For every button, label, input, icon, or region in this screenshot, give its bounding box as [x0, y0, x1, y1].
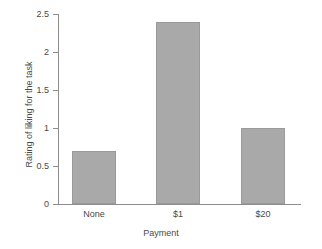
- x-axis-line: [58, 204, 301, 205]
- x-tick-label-dollar-1: $1: [148, 209, 208, 220]
- y-tick-label-0: 0: [20, 200, 49, 209]
- y-tick-label-0-text: 0: [20, 200, 49, 209]
- bar-none: [72, 151, 116, 204]
- bar-chart: 0 0.5 1 1.5 2 2.5 None $1 $20 Payment Ra…: [0, 0, 322, 249]
- y-axis-line: [58, 14, 59, 205]
- y-axis-title: Rating of liking for the task: [24, 35, 35, 195]
- y-tick-mark-3: [53, 90, 58, 91]
- x-axis-title: Payment: [0, 228, 322, 239]
- bar-dollar-20: [241, 128, 285, 204]
- y-tick-mark-2: [53, 128, 58, 129]
- y-tick-label-5-text: 2.5: [20, 10, 49, 19]
- y-tick-mark-0: [53, 204, 58, 205]
- y-tick-mark-4: [53, 52, 58, 53]
- bar-dollar-1: [156, 22, 200, 204]
- y-tick-mark-1: [53, 166, 58, 167]
- x-tick-label-none: None: [64, 209, 124, 220]
- x-tick-label-dollar-20: $20: [233, 209, 293, 220]
- y-tick-label-5: 2.5: [20, 10, 49, 19]
- y-tick-mark-5: [53, 14, 58, 15]
